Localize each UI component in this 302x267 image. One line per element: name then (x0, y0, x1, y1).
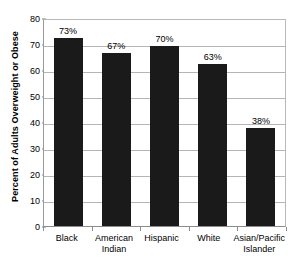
x-tick-mark (92, 227, 93, 231)
y-tick-label: 20 (22, 171, 40, 180)
bar-value-label: 38% (252, 117, 270, 126)
y-tick-label: 50 (22, 93, 40, 102)
x-axis-label: Asian/Pacific Islander (233, 233, 287, 255)
x-axis-label: American Indian (90, 233, 137, 255)
bar-slot: 63% (189, 20, 237, 226)
bar[interactable]: 67% (102, 53, 131, 226)
bar-value-label: 67% (107, 42, 125, 51)
bar[interactable]: 38% (246, 128, 275, 226)
y-tick-label: 30 (22, 145, 40, 154)
bar-slot: 70% (140, 20, 188, 226)
x-axis-label: White (185, 233, 232, 255)
bar-chart: Percent of Adults Overweight or Obese 80… (0, 0, 302, 267)
x-axis-labels: BlackAmerican IndianHispanicWhiteAsian/P… (43, 233, 286, 255)
x-tick-mark (286, 227, 287, 231)
y-axis-title-text: Percent of Adults Overweight or Obese (11, 31, 20, 202)
x-axis-ticks (43, 227, 286, 232)
x-tick-mark (189, 227, 190, 231)
bar[interactable]: 63% (198, 64, 227, 226)
bar-value-label: 73% (59, 27, 77, 36)
y-tick-label: 60 (22, 67, 40, 76)
y-tick-label: 10 (22, 197, 40, 206)
bar-slot: 67% (92, 20, 140, 226)
bar[interactable]: 70% (150, 46, 179, 226)
x-tick-mark (140, 227, 141, 231)
y-tick-label: 80 (22, 15, 40, 24)
x-tick-mark (43, 227, 44, 231)
y-axis-title: Percent of Adults Overweight or Obese (8, 0, 22, 232)
x-axis-label: Hispanic (138, 233, 185, 255)
y-tick-label: 70 (22, 41, 40, 50)
x-axis-label: Black (43, 233, 90, 255)
bar-value-label: 70% (155, 35, 173, 44)
x-tick-mark (237, 227, 238, 231)
y-axis-ticks: 80706050403020100 (22, 19, 40, 227)
bar-slot: 73% (44, 20, 92, 226)
y-tick-label: 0 (22, 223, 40, 232)
bar[interactable]: 73% (54, 38, 83, 226)
y-tick-label: 40 (22, 119, 40, 128)
plot-area: 73%67%70%63%38% (43, 19, 286, 227)
bar-series: 73%67%70%63%38% (44, 20, 285, 226)
bar-value-label: 63% (204, 53, 222, 62)
bar-slot: 38% (237, 20, 285, 226)
